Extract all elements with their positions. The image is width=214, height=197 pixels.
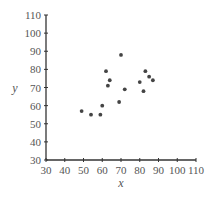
axes: 30405060708090100110 3040506070809010011… xyxy=(25,9,205,176)
data-point xyxy=(119,53,123,57)
x-tick-label: 50 xyxy=(78,164,90,176)
y-tick-label: 60 xyxy=(30,100,42,112)
data-point xyxy=(89,113,93,117)
data-point xyxy=(108,78,112,82)
data-points xyxy=(80,53,155,117)
y-axis-ticks: 30405060708090100110 xyxy=(25,9,49,166)
y-tick-label: 90 xyxy=(30,45,42,57)
data-point xyxy=(106,84,110,88)
y-tick-label: 100 xyxy=(25,27,42,39)
y-tick-label: 80 xyxy=(30,63,42,75)
data-point xyxy=(151,78,155,82)
data-point xyxy=(123,87,127,91)
x-tick-label: 90 xyxy=(153,164,165,176)
data-point xyxy=(98,113,102,117)
data-point xyxy=(80,109,84,113)
x-tick-label: 40 xyxy=(59,164,71,176)
y-tick-label: 70 xyxy=(30,82,42,94)
x-tick-label: 70 xyxy=(116,164,128,176)
y-tick-label: 110 xyxy=(25,9,42,21)
data-point xyxy=(142,89,146,93)
x-axis-ticks: 30405060708090100110 xyxy=(41,158,205,176)
data-point xyxy=(104,69,108,73)
x-tick-label: 110 xyxy=(188,164,205,176)
y-tick-label: 40 xyxy=(30,136,42,148)
x-tick-label: 100 xyxy=(169,164,186,176)
scatter-chart: 30405060708090100110 3040506070809010011… xyxy=(0,0,214,197)
data-point xyxy=(100,104,104,108)
x-tick-label: 30 xyxy=(41,164,53,176)
x-tick-label: 60 xyxy=(97,164,109,176)
y-tick-label: 50 xyxy=(30,118,42,130)
data-point xyxy=(143,69,147,73)
x-tick-label: 80 xyxy=(134,164,146,176)
y-tick-label: 30 xyxy=(30,154,42,166)
data-point xyxy=(147,75,151,79)
y-axis-title: y xyxy=(11,81,18,95)
data-point xyxy=(138,80,142,84)
data-point xyxy=(117,100,121,104)
x-axis-title: x xyxy=(117,176,124,190)
